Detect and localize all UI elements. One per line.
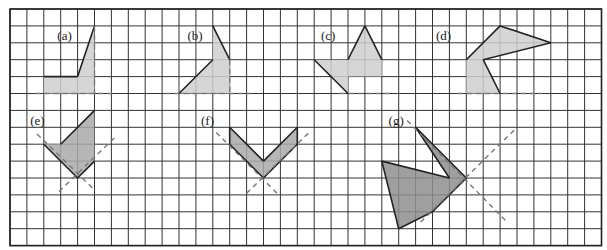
panel-label-f: (f) (201, 113, 214, 128)
panel-label-b: (b) (187, 28, 202, 43)
shape-edge (416, 127, 467, 178)
panel-e (37, 110, 116, 191)
panel-label-e: (e) (30, 113, 44, 128)
panel-label-a: (a) (57, 28, 71, 43)
panel-label-c: (c) (321, 28, 335, 43)
panel-a (35, 26, 114, 97)
panel-label-d: (d) (436, 28, 451, 43)
reflection-grid-figure: (a)(b)(c)(d)(e)(f)(g) (0, 0, 607, 250)
panel-label-g: (g) (389, 113, 404, 128)
